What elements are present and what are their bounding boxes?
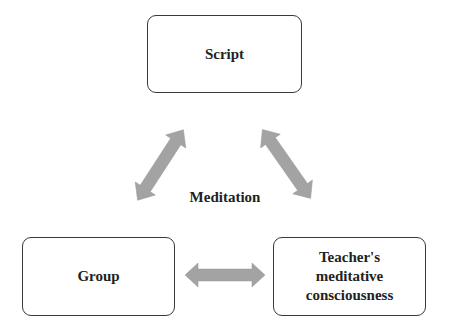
node-group-label: Group xyxy=(77,267,119,286)
node-teacher-label: Teacher's meditative consciousness xyxy=(306,248,394,305)
arrow-group-teacher xyxy=(185,263,265,287)
node-script-label: Script xyxy=(205,45,244,64)
diagram-canvas: Script Group Teacher's meditative consci… xyxy=(0,0,449,331)
node-teacher: Teacher's meditative consciousness xyxy=(273,237,426,316)
node-group: Group xyxy=(22,237,175,316)
center-label-meditation: Meditation xyxy=(150,188,300,207)
node-script: Script xyxy=(147,15,302,93)
